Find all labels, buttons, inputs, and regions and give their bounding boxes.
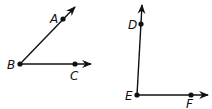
label-a: A — [49, 12, 58, 26]
ray-ed — [137, 5, 142, 95]
label-c: C — [70, 69, 79, 83]
label-b: B — [7, 58, 15, 72]
point-a — [60, 16, 65, 21]
label-f: F — [186, 97, 194, 109]
point-b — [17, 61, 22, 66]
point-d — [138, 21, 143, 26]
point-e — [134, 92, 139, 97]
ray-ba — [20, 7, 75, 64]
angle-abc: A B C — [7, 7, 91, 83]
angle-def: D E F — [125, 5, 208, 109]
point-c — [72, 61, 77, 66]
angles-diagram: A B C D E F — [0, 0, 212, 109]
label-d: D — [128, 18, 137, 32]
label-e: E — [125, 89, 133, 103]
